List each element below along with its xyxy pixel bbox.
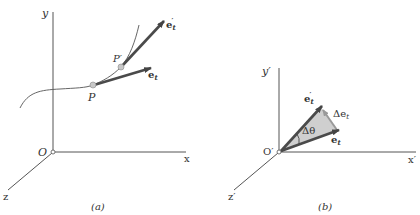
x-prime-axis-label: x′ bbox=[408, 154, 417, 165]
et-prime-label-b: et′ bbox=[304, 90, 314, 106]
z-prime-axis bbox=[234, 153, 278, 190]
x-axis-label: x bbox=[184, 153, 190, 164]
unit-tangent-vector-et-prime bbox=[122, 21, 164, 66]
z-prime-axis-label: z′ bbox=[228, 191, 236, 202]
angle-label: Δθ bbox=[302, 125, 315, 136]
panel-b: y′ x′ z′ O′ Δθ et et′ Δet (b) bbox=[228, 65, 417, 212]
point-P-prime-label: P′ bbox=[112, 53, 123, 64]
z-axis-label: z bbox=[3, 191, 8, 202]
panel-a: y x z O P P′ et et′ (a) bbox=[3, 7, 190, 212]
origin-prime-marker bbox=[277, 150, 281, 154]
et-label-b: et bbox=[331, 134, 341, 147]
y-prime-axis-label: y′ bbox=[261, 65, 271, 78]
caption-a: (a) bbox=[91, 201, 105, 212]
point-P bbox=[90, 82, 96, 88]
y-axis-label: y bbox=[41, 7, 49, 20]
origin-prime-label: O′ bbox=[263, 146, 274, 157]
diagram-canvas: y x z O P P′ et et′ (a) y′ x′ z′ O′ Δθ bbox=[0, 0, 420, 215]
et-label: et bbox=[148, 69, 158, 82]
delta-et-label: Δet bbox=[333, 108, 349, 121]
et-prime-label: et′ bbox=[166, 16, 176, 32]
origin-marker bbox=[51, 150, 55, 154]
point-P-prime bbox=[118, 64, 124, 70]
unit-tangent-vector-et bbox=[94, 68, 151, 85]
point-P-label: P bbox=[87, 91, 96, 104]
caption-b: (b) bbox=[318, 201, 332, 212]
origin-label: O bbox=[38, 146, 47, 159]
